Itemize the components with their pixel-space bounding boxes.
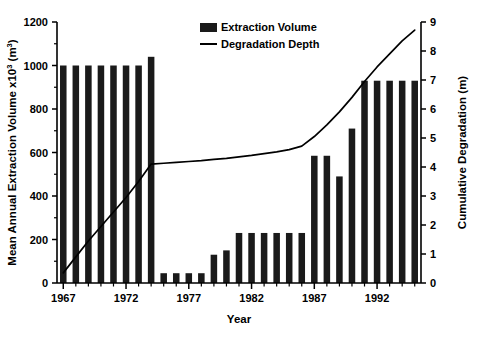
chart-container: 0200400600800100012000123456789196719721… [0, 0, 480, 340]
x-tick-label-1972: 1972 [114, 292, 138, 304]
y-axis-title-right: Cumulative Degradation (m) [456, 76, 468, 230]
bar-1990 [349, 129, 356, 283]
bar-1987 [311, 156, 318, 283]
x-axis-title: Year [227, 313, 252, 325]
bar-1967 [60, 66, 67, 284]
x-tick-label-1982: 1982 [239, 292, 263, 304]
bar-1968 [73, 66, 80, 284]
bar-1988 [324, 156, 331, 283]
y-tick-label-right-1: 1 [430, 248, 436, 260]
bar-1983 [261, 233, 268, 283]
y-tick-label-left-1000: 1000 [24, 60, 48, 72]
y-tick-label-right-2: 2 [430, 219, 436, 231]
bar-1980 [223, 250, 230, 283]
bar-1986 [299, 233, 306, 283]
legend-label-extraction-volume: Extraction Volume [221, 21, 317, 33]
x-tick-label-1992: 1992 [365, 292, 389, 304]
bar-1995 [411, 81, 418, 283]
x-tick-label-1987: 1987 [302, 292, 326, 304]
x-tick-label-1967: 1967 [51, 292, 75, 304]
bar-1974 [148, 57, 155, 283]
y-tick-label-right-0: 0 [430, 277, 436, 289]
y-tick-label-right-4: 4 [430, 161, 437, 173]
bar-1976 [173, 273, 180, 283]
bar-1972 [123, 66, 130, 284]
y-tick-label-right-6: 6 [430, 103, 436, 115]
bar-1971 [110, 66, 117, 284]
bar-1991 [361, 81, 368, 283]
y-axis-title-left: Mean Annual Extraction Volume x103 (m3) [5, 39, 18, 265]
legend-label-degradation-depth: Degradation Depth [221, 38, 320, 50]
bar-1985 [286, 233, 293, 283]
chart-background [0, 0, 480, 340]
y-tick-label-left-1200: 1200 [24, 16, 48, 28]
y-tick-label-right-3: 3 [430, 190, 436, 202]
y-tick-label-left-800: 800 [30, 103, 48, 115]
bar-1994 [399, 81, 406, 283]
bar-1989 [336, 176, 343, 283]
x-tick-label-1977: 1977 [177, 292, 201, 304]
y-tick-label-right-9: 9 [430, 16, 436, 28]
bar-1969 [85, 66, 92, 284]
bar-1978 [198, 273, 205, 283]
bar-1992 [374, 81, 381, 283]
y-tick-label-left-600: 600 [30, 147, 48, 159]
bar-1973 [135, 66, 142, 284]
y-tick-label-left-400: 400 [30, 190, 48, 202]
y-tick-label-right-8: 8 [430, 45, 436, 57]
y-tick-label-left-200: 200 [30, 234, 48, 246]
bar-1977 [186, 273, 193, 283]
bar-1975 [160, 273, 167, 283]
extraction-degradation-chart: 0200400600800100012000123456789196719721… [0, 0, 480, 340]
bar-1981 [236, 233, 243, 283]
y-tick-label-right-5: 5 [430, 132, 436, 144]
bar-1984 [273, 233, 280, 283]
legend-swatch-extraction-volume [200, 23, 217, 32]
bar-1982 [248, 233, 255, 283]
bar-1993 [386, 81, 393, 283]
bar-1970 [98, 66, 105, 284]
bar-1979 [211, 255, 218, 283]
y-tick-label-right-7: 7 [430, 74, 436, 86]
y-tick-label-left-0: 0 [42, 277, 48, 289]
